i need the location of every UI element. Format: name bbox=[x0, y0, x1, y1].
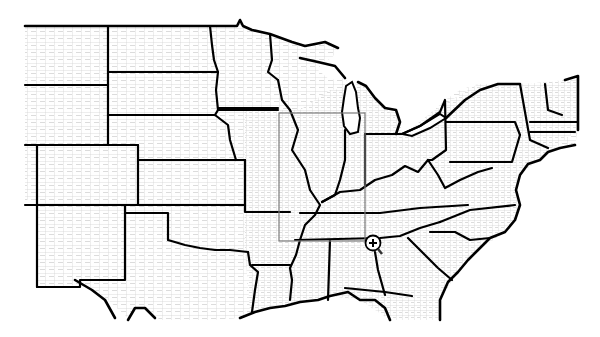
map-viewport[interactable]: + United States county boundaries map bbox=[0, 0, 600, 337]
eastern-counties bbox=[245, 80, 578, 320]
zoom-cursor: + bbox=[364, 234, 382, 252]
map-canvas[interactable] bbox=[0, 0, 600, 337]
zoom-in-icon bbox=[364, 234, 386, 260]
